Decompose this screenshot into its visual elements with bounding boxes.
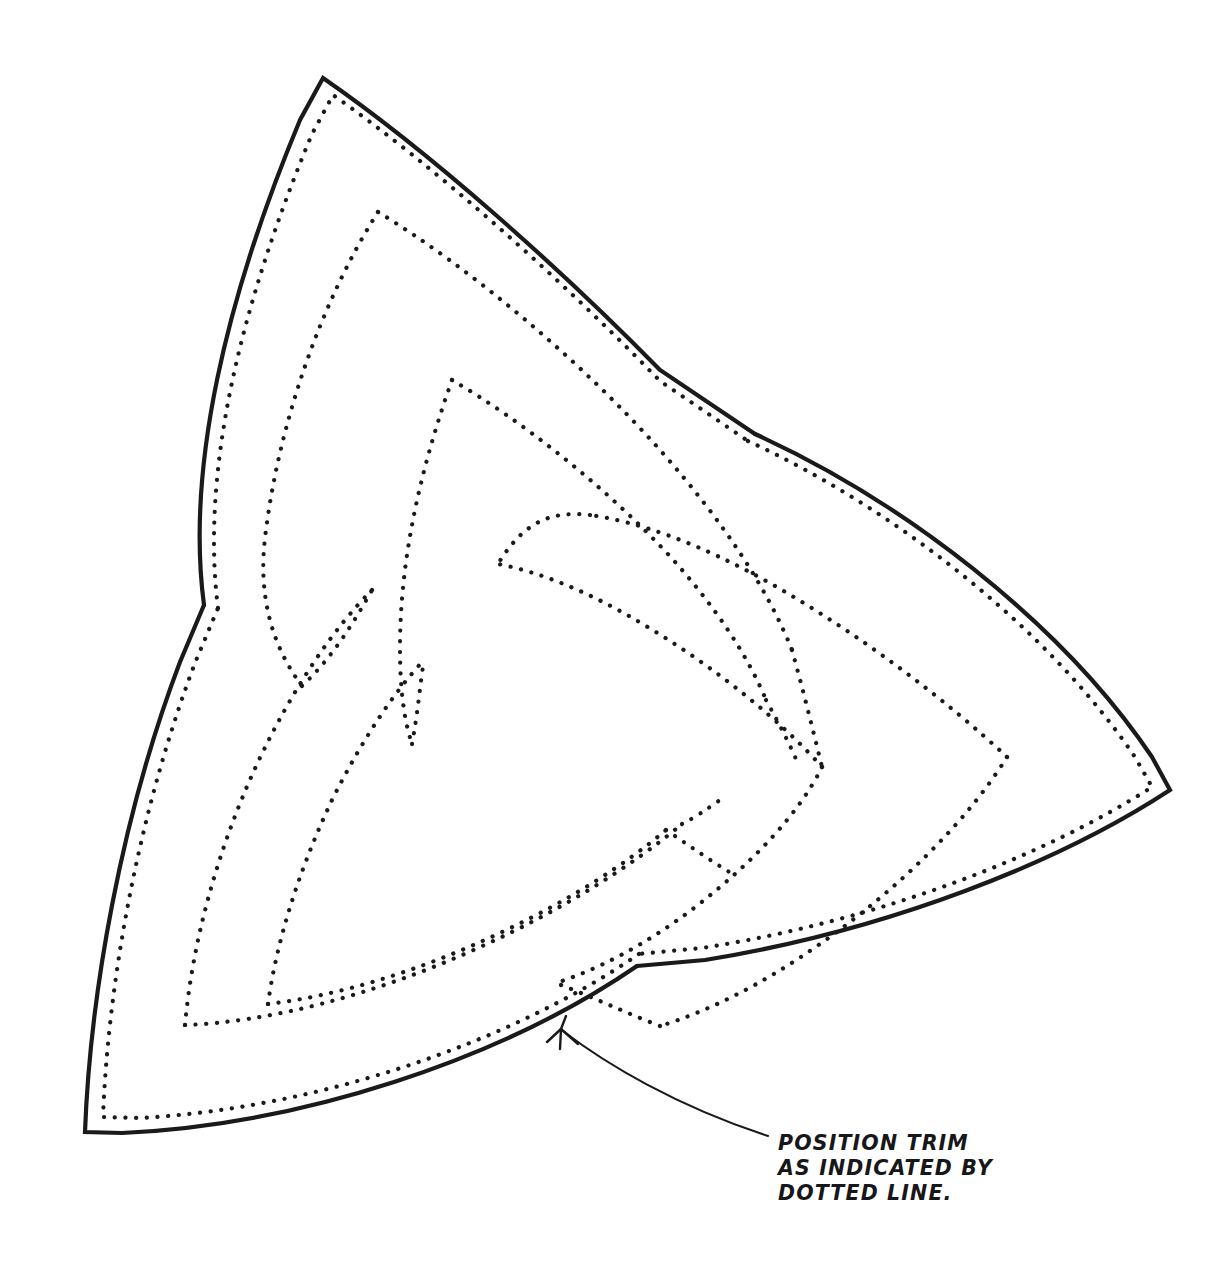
note-line-2: AS INDICATED BY <box>776 1156 994 1180</box>
note-line-3: DOTTED LINE. <box>778 1181 952 1205</box>
pattern-drawing-canvas: POSITION TRIM AS INDICATED BY DOTTED LIN… <box>0 0 1231 1264</box>
note-line-1: POSITION TRIM <box>778 1131 969 1155</box>
pattern-drawing: POSITION TRIM AS INDICATED BY DOTTED LIN… <box>0 0 1231 1264</box>
